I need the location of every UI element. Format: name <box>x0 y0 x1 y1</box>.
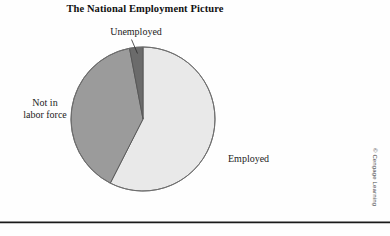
pie-label-employed: Employed <box>228 153 269 165</box>
copyright-credit: © Cengage Learning <box>366 148 378 224</box>
bottom-divider-rule <box>0 221 390 224</box>
pie-label-unemployed: Unemployed <box>92 26 180 38</box>
pie-label-not-in-labor-force-line1: Not in <box>14 97 76 109</box>
pie-label-not-in-labor-force: Not in labor force <box>14 97 76 120</box>
pie-label-not-in-labor-force-line2: labor force <box>14 109 76 121</box>
figure-container: The National Employment Picture Unemploy… <box>0 0 390 236</box>
